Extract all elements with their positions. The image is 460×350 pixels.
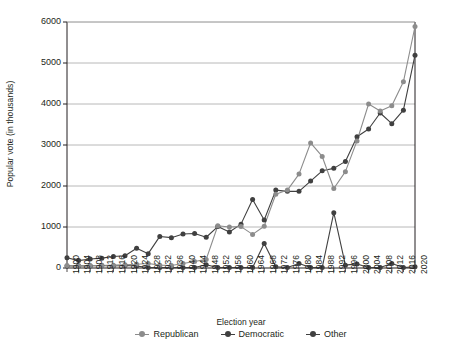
x-axis-tick-label: 2020 (419, 255, 429, 274)
data-point-democratic (331, 166, 336, 171)
x-axis-tick-label: 1984 (314, 255, 324, 274)
data-point-republican (355, 138, 360, 143)
x-axis-title-text: Election year (216, 317, 265, 327)
x-axis-tick-label: 1960 (245, 255, 255, 274)
data-point-democratic (192, 231, 197, 236)
data-point-republican (378, 108, 383, 113)
x-axis-tick-label: 2008 (384, 255, 394, 274)
x-axis-tick-label: 1916 (117, 255, 127, 274)
x-axis-tick-label: 1952 (221, 255, 231, 274)
data-point-democratic (308, 179, 313, 184)
x-axis-tick-label: 1996 (349, 255, 359, 274)
data-point-republican (389, 103, 394, 108)
series-line-republican (67, 27, 415, 266)
x-axis-tick-label: 1992 (337, 255, 347, 274)
data-point-republican (401, 79, 406, 84)
data-point-republican (227, 225, 232, 230)
legend-item-democratic[interactable]: Democratic (221, 329, 285, 339)
data-point-republican (239, 224, 244, 229)
data-point-republican (413, 24, 418, 29)
data-point-democratic (343, 159, 348, 164)
data-point-democratic (227, 229, 232, 234)
x-axis-tick-label: 1972 (279, 255, 289, 274)
x-axis-tick-label: 1920 (129, 255, 139, 274)
data-point-democratic (262, 218, 267, 223)
x-axis-tick-label: 1900 (71, 255, 81, 274)
x-axis-tick-label: 1904 (82, 255, 92, 274)
data-point-republican (262, 224, 267, 229)
x-axis-tick-label: 2004 (372, 255, 382, 274)
series-markers (65, 24, 418, 270)
data-point-democratic (413, 53, 418, 58)
x-axis-tick-label: 1928 (152, 255, 162, 274)
x-axis-tick-label: 1976 (291, 255, 301, 274)
x-axis-tick-label: 1912 (105, 255, 115, 274)
x-axis-tick-label: 1940 (187, 255, 197, 274)
data-point-democratic (157, 234, 162, 239)
x-axis-tick-label: 2012 (395, 255, 405, 274)
data-point-democratic (401, 108, 406, 113)
x-axis-tick-label: 1948 (210, 255, 220, 274)
legend-label: Republican (153, 329, 198, 339)
legend-label: Other (324, 329, 347, 339)
x-axis-tick-label: 2000 (361, 255, 371, 274)
x-axis-tick-label: 2016 (407, 255, 417, 274)
data-point-republican (250, 232, 255, 237)
data-point-democratic (181, 231, 186, 236)
x-axis-tick-label: 1944 (198, 255, 208, 274)
data-point-other (331, 210, 336, 215)
data-point-republican (343, 169, 348, 174)
x-axis-tick-label: 1980 (303, 255, 313, 274)
x-axis-tick-label: 1936 (175, 255, 185, 274)
x-axis-tick-label: 1968 (268, 255, 278, 274)
data-point-republican (331, 186, 336, 191)
data-point-democratic (389, 121, 394, 126)
data-point-democratic (204, 235, 209, 240)
data-point-republican (297, 172, 302, 177)
legend-item-republican[interactable]: Republican (135, 329, 198, 339)
x-axis-tick-label: 1908 (94, 255, 104, 274)
plot-area (0, 0, 460, 350)
legend-marker-icon (135, 330, 149, 339)
x-axis-tick-label: 1988 (326, 255, 336, 274)
gridlines (63, 22, 415, 268)
data-point-democratic (134, 246, 139, 251)
data-point-republican (285, 188, 290, 193)
legend-label: Democratic (239, 329, 285, 339)
x-axis-tick-label: 1964 (256, 255, 266, 274)
series-line-democratic (67, 55, 415, 260)
data-point-democratic (366, 127, 371, 132)
data-point-democratic (320, 168, 325, 173)
x-axis-tick-label: 1956 (233, 255, 243, 274)
data-point-democratic (65, 255, 70, 260)
data-point-other (262, 241, 267, 246)
data-point-republican (308, 140, 313, 145)
data-point-democratic (169, 235, 174, 240)
data-point-republican (366, 102, 371, 107)
data-point-republican (273, 192, 278, 197)
data-point-republican (320, 154, 325, 159)
chart-legend: RepublicanDemocraticOther (67, 329, 415, 339)
x-axis-tick-label: 1932 (163, 255, 173, 274)
data-point-republican (215, 223, 220, 228)
x-axis-tick-label: 1924 (140, 255, 150, 274)
x-axis-title: Election year (67, 317, 415, 327)
legend-item-other[interactable]: Other (306, 329, 347, 339)
legend-marker-icon (221, 330, 235, 339)
legend-marker-icon (306, 330, 320, 339)
data-point-democratic (250, 197, 255, 202)
chart-figure: Popular vote (in thousands) 010002000300… (0, 0, 460, 350)
data-point-democratic (297, 189, 302, 194)
data-point-republican (65, 263, 70, 268)
